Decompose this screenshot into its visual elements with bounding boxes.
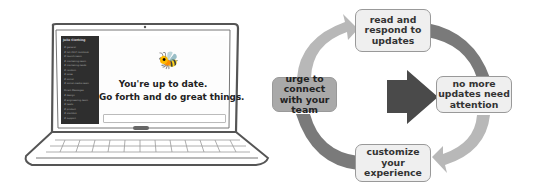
node-urge-connect: urge to connect with your team [272, 77, 337, 112]
center-arrow-icon [387, 70, 438, 124]
node-no-more-updates: no more updates need attention [436, 76, 512, 113]
node-read-respond: read and respond to updates [355, 9, 431, 52]
node-customize: customize your experience [355, 144, 431, 182]
